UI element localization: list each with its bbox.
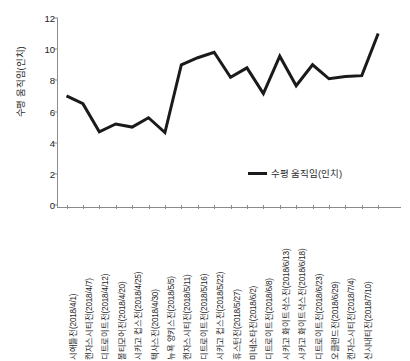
x-tick-label: 시카고 컵스전(2018/5/22) xyxy=(213,210,225,360)
y-axis-title: 수평 움직임(인치) xyxy=(13,17,27,147)
x-tick-label: 텍사스전(2018/4/30) xyxy=(148,210,160,360)
x-tick-label: 휴스턴전(2018/5/27) xyxy=(230,210,242,360)
x-tick-label: 디트로이트전(2018/4/12) xyxy=(98,210,110,360)
x-tick-mark xyxy=(313,205,314,209)
x-tick-label: 시카고 화이트삭스전(2018/6/18) xyxy=(295,210,307,360)
x-tick-label: 디트로이트전(2018/6/8) xyxy=(262,210,274,360)
x-tick-mark xyxy=(181,205,182,209)
x-tick-label: 시카고 컵스전(2018/4/25) xyxy=(131,210,143,360)
x-tick-mark xyxy=(165,205,166,209)
y-tick-label: 4 xyxy=(50,137,55,148)
x-tick-mark xyxy=(198,205,199,209)
x-tick-mark xyxy=(214,205,215,209)
x-tick-label: 디트로이트전(2018/5/16) xyxy=(197,210,209,360)
x-tick-mark xyxy=(116,205,117,209)
x-axis-label-slot: 신시내티전(2018/7/10) xyxy=(361,210,410,221)
y-tick-label: 10 xyxy=(44,44,55,55)
x-tick-mark xyxy=(67,205,68,209)
x-tick-mark xyxy=(247,205,248,209)
x-tick-label: 신시내티전(2018/7/10) xyxy=(361,210,373,360)
x-tick-label: 볼티모어전(2018/4/20) xyxy=(115,210,127,360)
legend-label: 수평 움직임(인치) xyxy=(271,166,342,180)
plot-area: 024681012 xyxy=(58,18,398,205)
x-tick-mark xyxy=(231,205,232,209)
y-tick-label: 8 xyxy=(50,75,55,86)
x-tick-mark xyxy=(132,205,133,209)
legend: 수평 움직임(인치) xyxy=(248,166,342,180)
x-tick-mark xyxy=(296,205,297,209)
x-tick-label: 시애틀전(2018/4/1) xyxy=(66,210,78,360)
legend-line-swatch xyxy=(248,172,267,175)
chart-title xyxy=(85,0,335,8)
y-tick-label: 2 xyxy=(50,168,55,179)
x-tick-label: 캔자스시티전(2018/7/4) xyxy=(344,210,356,360)
x-tick-mark xyxy=(345,205,346,209)
x-tick-label: 미네소타전(2018/6/2) xyxy=(246,210,258,360)
series-line-horizontal-movement xyxy=(67,34,379,133)
series-line-group xyxy=(58,18,398,205)
x-tick-label: 오클랜드전(2018/6/29) xyxy=(328,210,340,360)
x-tick-mark xyxy=(378,205,379,209)
x-axis-labels: 시애틀전(2018/4/1)캔자스시티전(2018/4/7)디트로이트전(201… xyxy=(58,210,402,360)
x-axis-line xyxy=(57,207,401,208)
y-tick-label: 6 xyxy=(50,106,55,117)
x-tick-label: 캔자스시티전(2018/5/11) xyxy=(180,210,192,360)
x-tick-mark xyxy=(280,205,281,209)
y-tick-label: 12 xyxy=(44,13,55,24)
line-chart-figure: 수평 움직임(인치) 024681012 수평 움직임(인치) 시애틀전(201… xyxy=(0,0,410,361)
y-tick-label: 0 xyxy=(50,200,55,211)
x-tick-mark xyxy=(83,205,84,209)
x-tick-label: 캔자스시티전(2018/4/7) xyxy=(82,210,94,360)
x-tick-mark xyxy=(329,205,330,209)
x-tick-mark xyxy=(99,205,100,209)
x-tick-label: 디트로이트전(2018/6/23) xyxy=(312,210,324,360)
x-tick-mark xyxy=(362,205,363,209)
x-tick-mark xyxy=(263,205,264,209)
x-tick-label: 시카고 화이트삭스전(2018/6/13) xyxy=(279,210,291,360)
x-tick-mark xyxy=(149,205,150,209)
x-tick-label: 뉴욕 양키스전(2018/5/5) xyxy=(164,210,176,360)
